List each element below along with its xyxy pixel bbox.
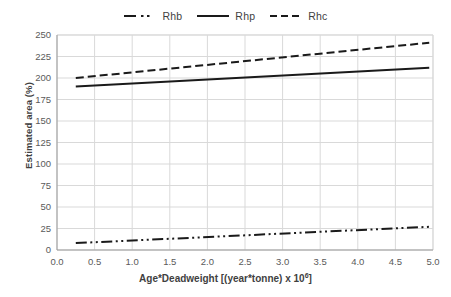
y-tick-label: 250	[21, 29, 51, 40]
line-chart: Rhb Rhp Rhc 02550751001251501	[0, 0, 451, 297]
x-tick-label: 3.0	[268, 256, 298, 267]
x-axis-title-base: Age*Deadweight [(year*tonne) x 10	[139, 273, 305, 284]
y-tick-label: 25	[21, 223, 51, 234]
x-axis-title-tail: ]	[309, 273, 312, 284]
gridlines	[57, 35, 433, 250]
x-axis-title: Age*Deadweight [(year*tonne) x 106]	[0, 272, 451, 284]
plot-canvas	[0, 0, 451, 297]
y-axis-title: Estimated area (%)	[23, 56, 34, 196]
y-tick-label: 50	[21, 201, 51, 212]
x-tick-label: 5.0	[418, 256, 448, 267]
x-tick-label: 4.5	[380, 256, 410, 267]
x-tick-label: 4.0	[343, 256, 373, 267]
x-tick-label: 2.0	[192, 256, 222, 267]
plot-area: 02550751001251501752002252500.00.51.01.5…	[0, 0, 451, 297]
x-tick-label: 0.0	[42, 256, 72, 267]
series-line-rhp	[76, 68, 429, 87]
x-tick-label: 2.5	[230, 256, 260, 267]
x-tick-label: 0.5	[80, 256, 110, 267]
y-tick-label: 0	[21, 244, 51, 255]
x-tick-label: 3.5	[305, 256, 335, 267]
series-line-rhc	[76, 43, 429, 78]
x-tick-label: 1.0	[117, 256, 147, 267]
x-tick-label: 1.5	[155, 256, 185, 267]
series-line-rhb	[76, 227, 429, 243]
